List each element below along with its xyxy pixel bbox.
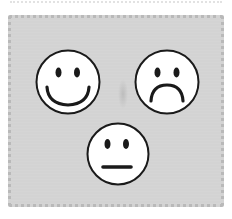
- left-eye: [56, 68, 62, 78]
- right-eye: [174, 68, 180, 78]
- sad-face-icon: [134, 49, 200, 115]
- left-eye: [105, 139, 111, 149]
- left-eye: [155, 68, 161, 78]
- right-eye: [123, 139, 129, 149]
- smudge-mark: [118, 79, 128, 109]
- right-eye: [74, 68, 80, 78]
- happy-face-icon: [35, 49, 101, 115]
- neutral-face-icon: [86, 122, 150, 186]
- top-dotted-divider: [10, 1, 222, 3]
